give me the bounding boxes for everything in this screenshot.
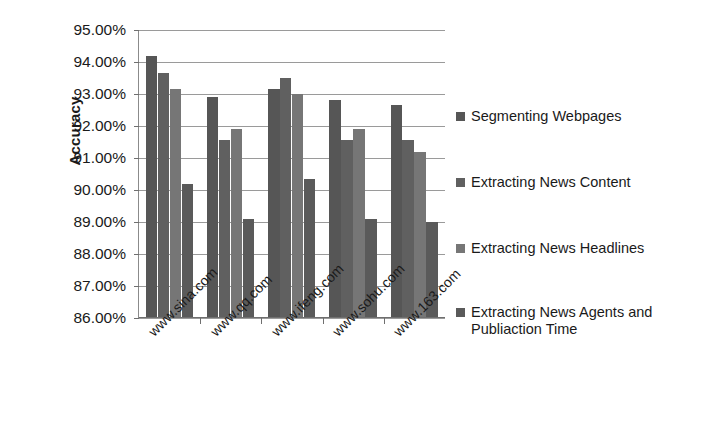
- legend-item[interactable]: Extracting News Content: [456, 174, 631, 191]
- bar: [280, 78, 291, 318]
- y-axis-tick-label: 90.00%: [73, 182, 126, 198]
- legend-item-label: Extracting News Agents and Publiaction T…: [471, 304, 687, 338]
- bar-chart: Accuracy 95.00%94.00%93.00%92.00%91.00%9…: [0, 0, 711, 448]
- y-axis-tick-label: 95.00%: [73, 22, 126, 38]
- y-axis-tick-label: 91.00%: [73, 150, 126, 166]
- y-axis-tick-label: 86.00%: [73, 310, 126, 326]
- bar: [231, 129, 242, 318]
- bar: [146, 56, 157, 318]
- legend-swatch-icon: [456, 178, 465, 187]
- legend-item[interactable]: Extracting News Agents and Publiaction T…: [456, 304, 687, 338]
- legend-item[interactable]: Segmenting Webpages: [456, 108, 621, 125]
- y-axis-tick-labels: 95.00%94.00%93.00%92.00%91.00%90.00%89.0…: [36, 0, 132, 448]
- legend-swatch-icon: [456, 308, 465, 317]
- legend-swatch-icon: [456, 244, 465, 253]
- y-axis-tick-label: 89.00%: [73, 214, 126, 230]
- bar: [292, 94, 303, 318]
- y-axis-tick-label: 87.00%: [73, 278, 126, 294]
- x-axis-category-labels: www.sina.comwww.qq.comwww.ifeng.comwww.s…: [138, 318, 444, 438]
- y-axis-tick-label: 94.00%: [73, 54, 126, 70]
- legend-item-label: Segmenting Webpages: [471, 108, 621, 125]
- y-axis-tick-label: 88.00%: [73, 246, 126, 262]
- bar: [158, 73, 169, 318]
- legend-item-label: Extracting News Content: [471, 174, 631, 191]
- bar: [219, 140, 230, 318]
- legend-item-label: Extracting News Headlines: [471, 240, 644, 257]
- legend-item[interactable]: Extracting News Headlines: [456, 240, 644, 257]
- bar: [341, 140, 352, 318]
- bar: [353, 129, 364, 318]
- legend-swatch-icon: [456, 112, 465, 121]
- bar: [170, 89, 181, 318]
- y-axis-tick-label: 92.00%: [73, 118, 126, 134]
- y-axis-tick-label: 93.00%: [73, 86, 126, 102]
- bar: [402, 140, 413, 318]
